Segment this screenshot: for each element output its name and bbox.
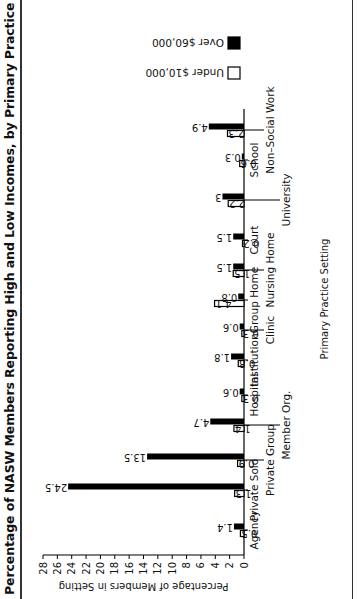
x-axis-title: Primary Practice Setting bbox=[319, 239, 330, 360]
y-tick-label: 18 bbox=[109, 562, 120, 575]
y-tick-label: 6 bbox=[195, 562, 206, 568]
y-tick-label: 0 bbox=[239, 562, 250, 568]
y-tick-label: 28 bbox=[38, 562, 49, 575]
value-label-over: 0.6 bbox=[223, 387, 239, 398]
category-label: Private Group bbox=[264, 424, 276, 496]
value-label-over: 0.3 bbox=[225, 152, 241, 163]
bar-over-60000 bbox=[147, 454, 244, 460]
y-tick-label: 22 bbox=[81, 562, 92, 575]
category-label: School bbox=[248, 143, 260, 178]
category-label: Member Org. bbox=[280, 391, 292, 460]
category-label: Institution bbox=[248, 333, 260, 386]
y-axis-title: Percentage of Members in Setting bbox=[59, 581, 229, 592]
category-label: Court bbox=[248, 226, 260, 255]
value-label-over: 1.8 bbox=[214, 352, 230, 363]
bar-chart: 0246810121416182022242628Percentage of M… bbox=[0, 0, 357, 599]
category-label: Non–Social Work bbox=[264, 85, 276, 173]
y-tick-label: 12 bbox=[152, 562, 163, 575]
legend-swatch-under bbox=[228, 67, 240, 79]
category-label: University bbox=[280, 174, 292, 227]
value-label-over: 0.6 bbox=[223, 322, 239, 333]
value-label-over: 24.5 bbox=[45, 482, 67, 493]
bottom-divider bbox=[352, 0, 353, 599]
value-label-over: 13.5 bbox=[124, 452, 146, 463]
y-tick-label: 26 bbox=[52, 562, 63, 575]
y-tick-label: 4 bbox=[210, 562, 221, 568]
bar-over-60000 bbox=[68, 484, 244, 490]
y-tick-label: 14 bbox=[138, 562, 149, 575]
y-tick-label: 16 bbox=[124, 562, 135, 575]
y-tick-label: 8 bbox=[181, 562, 192, 568]
y-tick-label: 2 bbox=[224, 562, 235, 568]
value-label-over: 4.7 bbox=[193, 417, 209, 428]
legend-label-over: Over $60,000 bbox=[152, 37, 224, 49]
value-label-under: 2.2 bbox=[229, 198, 245, 209]
legend-label-under: Under $10,000 bbox=[145, 67, 224, 79]
value-label-under: 2.3 bbox=[228, 128, 244, 139]
value-label-over: 1.4 bbox=[217, 522, 233, 533]
bar-over-60000 bbox=[238, 294, 244, 300]
legend-swatch-over bbox=[228, 37, 240, 49]
bar-over-60000 bbox=[233, 234, 244, 240]
value-label-over: 0.8 bbox=[221, 292, 237, 303]
category-label: Clinic bbox=[264, 316, 276, 345]
y-tick-label: 24 bbox=[66, 562, 77, 575]
value-label-over: 1.5 bbox=[216, 262, 232, 273]
y-tick-label: 10 bbox=[167, 562, 178, 575]
category-label: Nursing Home bbox=[264, 233, 276, 308]
value-label-over: 1.5 bbox=[216, 232, 232, 243]
value-label-over: 4.9 bbox=[192, 122, 208, 133]
chart-canvas: Percentage of NASW Members Reporting Hig… bbox=[0, 0, 357, 599]
y-tick-label: 20 bbox=[95, 562, 106, 575]
value-label-over: 3 bbox=[215, 192, 221, 203]
